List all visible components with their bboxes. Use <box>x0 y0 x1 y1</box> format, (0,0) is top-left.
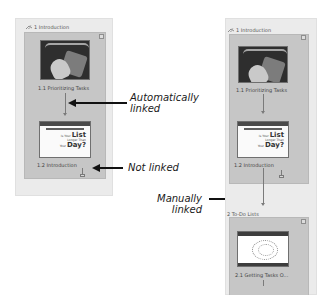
annotation-automatically-linked: Automatically linked <box>130 92 199 114</box>
connector-arrowhead <box>63 113 67 116</box>
thumbnail-introduction-slide[interactable]: Is Your List Longer Than Your Day? <box>237 121 289 158</box>
auto-link-connector <box>65 93 66 114</box>
slide-text: Is Your List Longer Than Your Day? <box>258 132 284 149</box>
annotation-manually-linked: Manually linked <box>157 193 202 215</box>
thumbnail-mind-map[interactable] <box>237 231 289 267</box>
annotation-not-linked: Not linked <box>128 162 179 173</box>
unlinked-end-box <box>279 175 284 178</box>
caption-2-1: 2.1 Getting Tasks O... <box>235 272 288 278</box>
connector-arrowhead <box>261 203 265 206</box>
caption-1-1: 1.1 Prioritizing Tasks <box>236 87 287 93</box>
connector-arrowhead <box>261 111 265 114</box>
slide-text: Is Your List Longer Than Your Day? <box>60 132 86 149</box>
right-section-title[interactable]: 1 Introduction <box>228 27 271 33</box>
caption-1-2: 1.2 Introduction <box>37 162 77 168</box>
collapse-icon[interactable] <box>99 34 104 39</box>
left-section-title[interactable]: 1 Introduction <box>26 24 69 30</box>
collapse-icon[interactable] <box>301 35 306 40</box>
section-title-text: 1 Introduction <box>34 24 69 30</box>
unlinked-end-box <box>80 174 85 177</box>
connector-stub <box>263 280 264 286</box>
manual-link-connector <box>263 168 264 204</box>
auto-link-connector <box>263 94 264 112</box>
thumbnail-introduction-slide[interactable]: Is Your List Longer Than Your Day? <box>39 121 91 158</box>
slide-header-bar <box>238 122 288 126</box>
mindmap-outline <box>258 244 274 256</box>
caption-1-1: 1.1 Prioritizing Tasks <box>38 85 89 91</box>
section-title-text: 1 Introduction <box>236 27 271 33</box>
slide-header-bar <box>40 122 90 126</box>
mindmap-header-bar <box>238 232 288 236</box>
section-icon <box>228 28 234 33</box>
caption-1-2: 1.2 Introduction <box>234 162 274 168</box>
collapse-icon[interactable] <box>301 219 306 224</box>
thumbnail-prioritizing-tasks[interactable] <box>238 46 288 83</box>
thumbnail-prioritizing-tasks[interactable] <box>40 40 90 80</box>
section-icon <box>26 25 32 30</box>
annotation-line <box>75 102 127 104</box>
annotation-line <box>99 167 123 169</box>
slide-title-bar <box>46 128 84 130</box>
slide-title-bar <box>244 128 282 130</box>
mindmap-footer-bar <box>238 263 288 266</box>
